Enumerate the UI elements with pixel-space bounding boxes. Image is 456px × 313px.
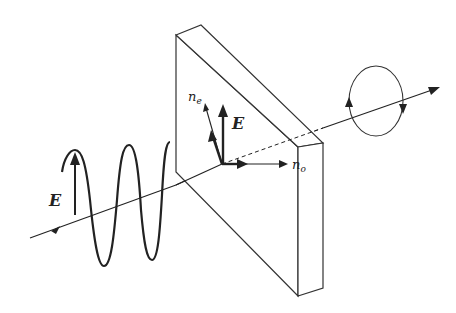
beam-end-arrow-icon (428, 87, 440, 95)
circular-arrow-down-icon (399, 104, 407, 114)
circular-polarization-ellipse (349, 66, 403, 136)
wave-plate (176, 25, 323, 296)
wave-plate-diagram: E E ne no (0, 0, 456, 313)
circular-arrow-up-icon (345, 97, 353, 107)
incident-e-arrow-icon (70, 152, 80, 165)
plate-e-label: E (231, 114, 245, 133)
incident-e-label: E (48, 191, 62, 210)
